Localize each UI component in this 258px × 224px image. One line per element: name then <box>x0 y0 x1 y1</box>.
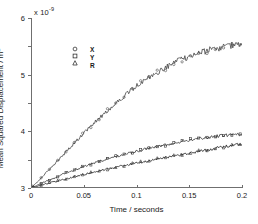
y-axis-exponent-label: x 10-9 <box>34 6 54 17</box>
x-tick: 0 <box>31 185 32 188</box>
y-tick: 1 <box>28 160 31 161</box>
series-marker-r <box>164 69 166 71</box>
y-axis-title: Mean Squared Displacement / m2 <box>0 48 5 168</box>
x-tick-label: 0.1 <box>131 191 141 200</box>
series-line-r <box>31 42 242 188</box>
legend-labels: XYR <box>90 46 95 69</box>
figure: x 10-9 0123456 00.050.10.150.2 XYR Time … <box>0 0 258 224</box>
series-marker-r <box>181 61 183 63</box>
y-axis-line <box>31 18 32 188</box>
y-tick: 4 <box>28 75 31 76</box>
y-axis-exponent-power: -9 <box>49 6 54 12</box>
legend-markers <box>71 46 79 66</box>
y-tick: 0 <box>28 188 31 189</box>
x-tick: 0.15 <box>189 185 190 188</box>
y-tick-label: 4 <box>21 127 25 136</box>
data-canvas <box>31 18 242 188</box>
series-marker-r <box>156 69 158 71</box>
series-marker-r <box>222 47 224 49</box>
y-axis-title-text: Mean Squared Displacement / m <box>0 52 5 169</box>
series-marker-r <box>206 52 208 54</box>
legend-marker-r <box>71 60 79 66</box>
x-tick-label: 0.15 <box>182 191 197 200</box>
series-marker-r <box>140 80 142 82</box>
series-marker-r <box>173 63 175 65</box>
series-svg <box>31 18 242 188</box>
y-axis-exponent-mantissa: x 10 <box>34 8 49 17</box>
triangle-icon <box>73 61 77 65</box>
x-axis-title: Time / seconds <box>31 205 242 214</box>
series-marker-r <box>106 108 108 110</box>
circle-icon <box>73 47 77 51</box>
legend-marker-x <box>71 46 79 52</box>
series-marker-r <box>90 126 92 128</box>
y-tick: 3 <box>28 103 31 104</box>
plot-area: 0123456 00.050.10.150.2 XYR <box>31 18 242 188</box>
y-tick-label: 5 <box>21 70 25 79</box>
x-tick-label: 0 <box>29 191 33 200</box>
legend-label-x: X <box>90 46 95 53</box>
legend-label-y: Y <box>90 54 95 61</box>
y-axis-title-exponent: 2 <box>0 48 1 51</box>
legend-label-r: R <box>90 62 95 69</box>
x-tick-label: 0.05 <box>76 191 91 200</box>
y-tick: 5 <box>28 46 31 47</box>
y-tick-label: 6 <box>21 14 25 23</box>
x-tick: 0.05 <box>84 185 85 188</box>
x-tick-label: 0.2 <box>237 191 247 200</box>
y-tick: 2 <box>28 131 31 132</box>
x-tick: 0.1 <box>137 185 138 188</box>
x-tick: 0.2 <box>242 185 243 188</box>
y-tick: 6 <box>28 18 31 19</box>
legend: XYR <box>71 46 95 69</box>
legend-marker-y <box>71 53 79 59</box>
y-tick-label: 3 <box>21 184 25 193</box>
square-icon <box>73 54 77 58</box>
